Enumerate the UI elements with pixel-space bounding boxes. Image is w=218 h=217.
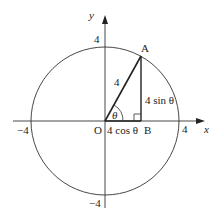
point-A-label: A bbox=[141, 42, 149, 54]
angle-label: θ bbox=[112, 109, 118, 121]
tick-x-neg: −4 bbox=[17, 124, 29, 136]
origin-label: O bbox=[94, 124, 102, 136]
hypotenuse-label: 4 bbox=[114, 76, 120, 88]
right-angle-marker bbox=[134, 114, 141, 121]
tick-y-pos: 4 bbox=[94, 33, 100, 45]
y-axis-label: y bbox=[88, 9, 94, 21]
y-axis-arrow-icon bbox=[102, 15, 108, 24]
segment-OA bbox=[105, 56, 141, 121]
opposite-label: 4 sin θ bbox=[145, 94, 174, 106]
adjacent-label: 4 cos θ bbox=[107, 124, 138, 136]
tick-x-pos: 4 bbox=[182, 123, 188, 135]
point-B-label: B bbox=[144, 124, 151, 136]
tick-y-neg: −4 bbox=[89, 197, 101, 209]
unit-circle-diagram: y x 4 −4 −4 4 A B O 4 4 cos θ 4 sin θ θ bbox=[0, 0, 218, 217]
x-axis-label: x bbox=[203, 123, 209, 135]
